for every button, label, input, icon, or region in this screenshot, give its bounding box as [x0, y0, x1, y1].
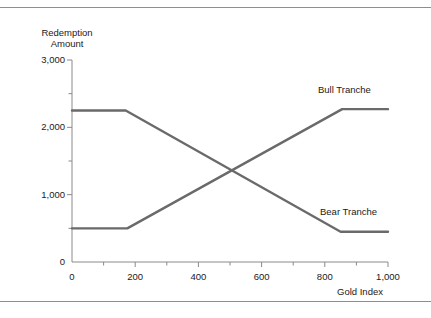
series-annotation-bear-tranche: Bear Tranche: [320, 206, 377, 217]
chart-figure: Redemption Amount Gold Index Bull Tranch…: [0, 0, 431, 318]
x-axis-title: Gold Index: [337, 286, 383, 297]
x-tick-label: 400: [176, 271, 220, 282]
y-axis-title-line-1: Redemption: [36, 27, 98, 38]
y-tick-label: 0: [21, 256, 65, 267]
x-tick-label: 600: [240, 271, 284, 282]
x-tick-label: 200: [113, 271, 157, 282]
series-annotation-bull-tranche: Bull Tranche: [318, 84, 371, 95]
y-tick-label: 3,000: [21, 54, 65, 65]
y-tick-label: 1,000: [21, 189, 65, 200]
x-tick-label: 0: [50, 271, 94, 282]
y-tick-label: 2,000: [21, 121, 65, 132]
y-axis-title-line-2: Amount: [36, 38, 98, 49]
x-tick-label: 1,000: [366, 271, 410, 282]
y-axis-title: Redemption Amount: [36, 27, 98, 49]
x-tick-label: 800: [303, 271, 347, 282]
